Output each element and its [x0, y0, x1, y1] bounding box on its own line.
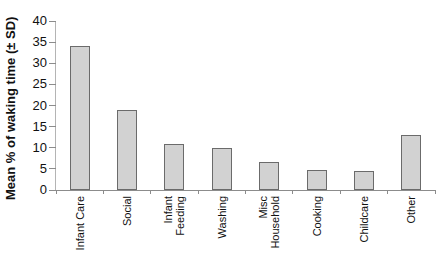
plot-area: 0510152025303540Infant CareSocialInfant …: [55, 21, 435, 191]
bar: [164, 144, 184, 190]
y-axis-tick: [49, 42, 56, 43]
x-axis-category-label: Cooking: [311, 196, 323, 258]
x-axis-category-label: Infant Care: [74, 196, 86, 258]
y-axis-tick: [49, 126, 56, 127]
x-axis-category-label: Washing: [216, 196, 228, 258]
bar: [70, 46, 90, 190]
y-axis-tick: [49, 105, 56, 106]
x-axis-category-label: Social: [121, 196, 133, 258]
x-axis-category-label: Misc Household: [257, 196, 281, 258]
y-axis-tick-label: 35: [3, 34, 47, 49]
x-axis-tick: [340, 190, 341, 194]
y-axis-tick-label: 30: [3, 55, 47, 70]
y-axis-tick-label: 20: [3, 98, 47, 113]
y-axis-tick: [49, 63, 56, 64]
x-axis-tick: [435, 190, 436, 194]
y-axis-tick-label: 15: [3, 119, 47, 134]
y-axis-tick-label: 10: [3, 140, 47, 155]
y-axis-tick-label: 5: [3, 161, 47, 176]
bar: [354, 171, 374, 190]
bar: [117, 110, 137, 190]
x-axis-tick: [150, 190, 151, 194]
y-axis-tick: [49, 168, 56, 169]
y-axis-tick: [49, 84, 56, 85]
bar: [259, 162, 279, 190]
y-axis-tick: [49, 147, 56, 148]
y-axis-tick-label: 0: [3, 182, 47, 197]
x-axis-category-label: Childcare: [358, 196, 370, 258]
y-axis-tick-label: 40: [3, 13, 47, 28]
bar: [307, 170, 327, 190]
y-axis-tick-label: 25: [3, 76, 47, 91]
bar: [401, 135, 421, 190]
x-axis-tick: [245, 190, 246, 194]
x-axis-tick: [103, 190, 104, 194]
x-axis-category-label: Infant Feeding: [162, 196, 186, 258]
bar: [212, 148, 232, 190]
x-axis-tick: [387, 190, 388, 194]
x-axis-tick: [56, 190, 57, 194]
x-axis-tick: [292, 190, 293, 194]
x-axis-category-label: Other: [405, 196, 417, 258]
x-axis-tick: [198, 190, 199, 194]
bar-chart-canvas: Mean % of waking time (± SD) 05101520253…: [0, 0, 446, 264]
y-axis-tick: [49, 21, 56, 22]
